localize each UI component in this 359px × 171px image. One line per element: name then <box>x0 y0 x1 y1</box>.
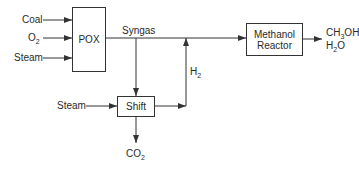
h2-label: H2 <box>190 66 201 78</box>
coal-label: Coal <box>22 14 43 25</box>
o2-label-sub: 2 <box>36 38 40 45</box>
pox-block: POX <box>72 7 106 72</box>
h2-label-sub: 2 <box>197 72 201 79</box>
methanol-sub: 3 <box>340 33 344 40</box>
pox-label: POX <box>78 34 99 45</box>
methanol-reactor-block: Methanol Reactor <box>246 23 303 56</box>
water-post: O <box>337 40 345 51</box>
co2-label-main: CO <box>126 148 141 159</box>
steam-label: Steam <box>14 52 43 63</box>
shift-block: Shift <box>117 96 155 117</box>
syngas-label: Syngas <box>122 25 155 36</box>
output-methanol: CH3OH <box>326 27 359 39</box>
o2-label-main: O <box>28 32 36 43</box>
methanol-post: OH <box>344 27 359 38</box>
o2-label: O2 <box>28 32 40 44</box>
shift-label: Shift <box>126 101 146 112</box>
methanol-reactor-line2: Reactor <box>257 40 292 51</box>
water-sub: 2 <box>333 46 337 53</box>
co2-label-sub: 2 <box>141 154 145 161</box>
methanol-pre: CH <box>326 27 340 38</box>
shift-steam-label: Steam <box>57 100 86 111</box>
methanol-reactor-line1: Methanol <box>254 29 295 40</box>
co2-label: CO2 <box>126 148 145 160</box>
output-water: H2O <box>326 40 345 52</box>
